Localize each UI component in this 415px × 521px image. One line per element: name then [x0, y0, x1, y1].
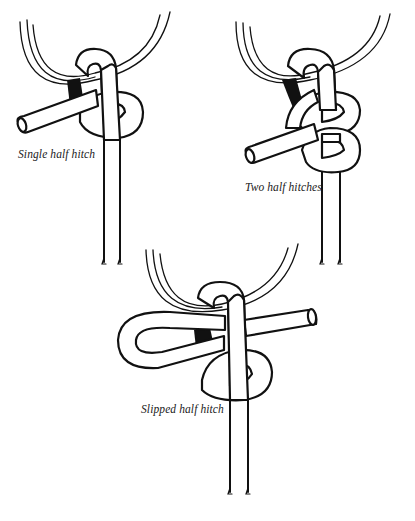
slipped-half-hitch-illustration: [90, 230, 330, 521]
caption-two-half-hitches: Two half hitches: [245, 181, 322, 193]
caption-single-half-hitch: Single half hitch: [18, 148, 95, 160]
caption-slipped-half-hitch: Slipped half hitch: [141, 403, 224, 415]
knot-diagram: Single half hitch Two half hitches: [0, 0, 415, 521]
ring-icon: [146, 244, 298, 312]
